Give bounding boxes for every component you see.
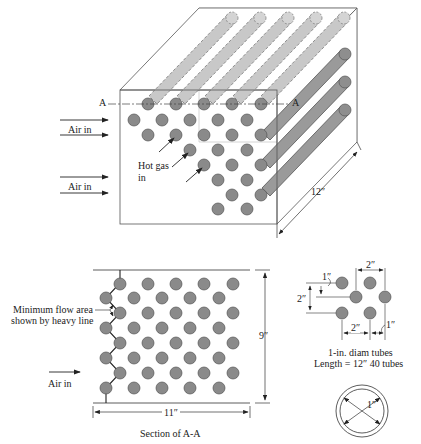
section-title: Section of A-A	[140, 428, 201, 439]
pitch-detail	[306, 268, 391, 340]
bottom-spacing-label: 2″	[351, 322, 360, 333]
min-flow-label-1: Minimum flow area	[13, 304, 93, 315]
pitch-caption-2: Length = 12″ 40 tubes	[314, 358, 403, 369]
section-tubes	[100, 278, 239, 394]
hot-gas-label-in: in	[138, 172, 146, 183]
front-face	[120, 90, 277, 224]
air-in-label-1: Air in	[68, 124, 92, 135]
vertical-spacing-label: 2″	[297, 293, 306, 304]
height-dimension-label: 9″	[259, 330, 268, 341]
min-flow-label-2: shown by heavy line	[11, 315, 94, 326]
depth-dimension-label: 12″	[311, 186, 325, 197]
section-a-a	[49, 270, 270, 418]
air-in-label-2: Air in	[68, 181, 92, 192]
section-air-in-label: Air in	[48, 378, 72, 389]
horizontal-offset-label: 1″	[386, 319, 395, 330]
top-spacing-label: 2″	[366, 259, 375, 270]
vertical-offset-label: 1″	[322, 271, 331, 282]
tube-diameter-label: 1″	[367, 399, 376, 410]
section-marker-right: A	[292, 97, 299, 108]
pitch-caption-1: 1-in. diam tubes	[328, 347, 393, 358]
width-dimension-label: 11″	[162, 407, 180, 418]
front-tube-ends	[128, 98, 267, 215]
tube-cross-section	[336, 385, 388, 437]
hot-gas-label: Hot gas	[138, 160, 169, 171]
section-marker-left: A	[99, 97, 106, 108]
